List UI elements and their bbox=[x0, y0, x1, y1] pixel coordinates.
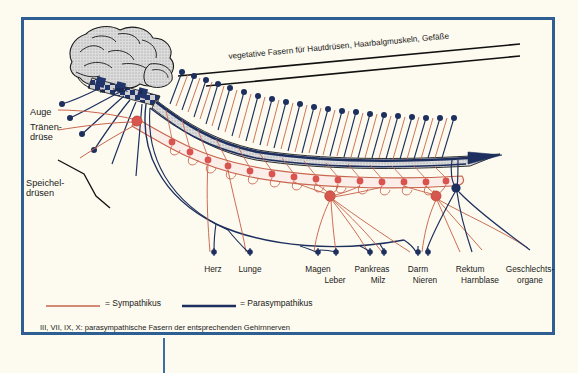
side-label-3: Speichel- bbox=[26, 178, 64, 188]
banner-bracket bbox=[178, 44, 520, 86]
pelvic-plexus bbox=[451, 183, 460, 192]
superior-cervical-ganglion bbox=[132, 116, 142, 126]
cranial-parasympathetic-fibers bbox=[58, 88, 142, 176]
organ-label-magen: Magen bbox=[288, 265, 348, 274]
cranial-nerve-label-X: X bbox=[139, 89, 143, 96]
organ-label-nieren: Nieren bbox=[395, 276, 455, 285]
organ-label-geschlechts: Geschlechts- bbox=[500, 265, 560, 274]
figure-canvas: vegetative Fasern für Hautdrüsen, Haarba… bbox=[0, 0, 578, 373]
anatomy-diagram bbox=[0, 0, 578, 373]
organ-label-darm: Darm bbox=[388, 265, 448, 274]
legend-label-0: = Sympathikus bbox=[105, 299, 161, 309]
organ-label-organe: organe bbox=[500, 276, 560, 285]
legend-label-1: = Parasympathikus bbox=[240, 299, 313, 309]
organ-label-rektum: Rektum bbox=[440, 265, 500, 274]
salivary-bracket bbox=[58, 160, 110, 208]
side-label-1: Tränen- bbox=[30, 122, 62, 132]
footnote-text: III, VII, IX, X: parasympathische Fasern… bbox=[40, 324, 290, 333]
side-label-0: Auge bbox=[30, 107, 51, 117]
cranial-nerve-label-VII-IX: VII/IX bbox=[113, 87, 128, 94]
side-label-2: drüse bbox=[30, 132, 53, 142]
side-label-4: drüsen bbox=[26, 188, 54, 198]
brain-illustration bbox=[70, 27, 174, 90]
organ-label-lunge: Lunge bbox=[220, 265, 280, 274]
cranial-nerve-label-III: III bbox=[100, 88, 105, 95]
